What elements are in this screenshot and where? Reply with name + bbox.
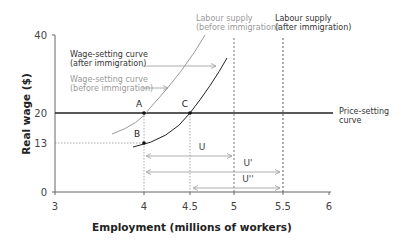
y-tick-label-13: 13: [34, 138, 47, 149]
interval-u1-label: U': [243, 158, 252, 168]
ws-before-label-line2: (before immigration): [70, 84, 153, 93]
point-a: [142, 111, 146, 115]
ls-after-label-line2: (after immigration): [275, 23, 351, 32]
point-c: [188, 111, 192, 115]
ps-label-line2: curve: [339, 116, 361, 125]
x-axis-title: Employment (millions of workers): [92, 221, 292, 233]
ws-after-label-line2: (after immigration): [70, 59, 146, 68]
y-tick-label-0: 0: [41, 187, 47, 198]
ls-before-label-line2: (before immigration): [196, 23, 279, 32]
interval-u2-label: U'': [242, 174, 254, 184]
x-tick-label-4-5: 4.5: [182, 201, 198, 212]
x-tick-label-5: 5: [231, 201, 237, 212]
wage-setting-curve-after: [133, 58, 227, 147]
ws-before-label-line1: Wage-setting curve: [70, 75, 148, 84]
ws-after-label-line1: Wage-setting curve: [70, 50, 148, 59]
y-tick-label-40: 40: [34, 30, 47, 41]
point-a-label: A: [136, 99, 143, 109]
interval-u-label: U: [199, 142, 206, 152]
x-tick-label-4: 4: [141, 201, 147, 212]
point-c-label: C: [182, 99, 188, 109]
x-tick-label-5-5: 5.5: [275, 201, 291, 212]
point-b-label: B: [134, 129, 140, 139]
x-tick-label-3: 3: [52, 201, 58, 212]
x-tick-label-6: 6: [326, 201, 332, 212]
chart-container: 40 20 13 0 3 4 4.5 5 5.5 6 Real wage ($)…: [0, 0, 397, 244]
ls-before-label-line1: Labour supply: [196, 14, 253, 23]
y-tick-label-20: 20: [34, 108, 47, 119]
chart-svg: 40 20 13 0 3 4 4.5 5 5.5 6 Real wage ($)…: [0, 0, 397, 244]
y-axis-title: Real wage ($): [20, 73, 32, 155]
point-b: [142, 141, 146, 145]
ls-after-label-line1: Labour supply: [275, 14, 332, 23]
ps-label-line1: Price-setting: [339, 107, 389, 116]
